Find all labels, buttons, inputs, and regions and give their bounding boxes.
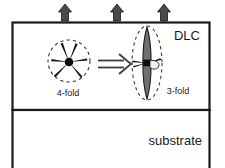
stress-arrows-group [59,4,171,21]
stress-arrow-up-icon [158,4,171,21]
substrate-layer-label: substrate [149,133,202,148]
stress-arrow-up-icon [59,4,72,21]
three-fold-lobe [149,60,159,69]
three-fold-label: 3-fold [167,86,190,96]
dlc-layer-label: DLC [174,28,200,43]
diagram-canvas: 4-fold 3-fold DLC [0,0,225,168]
stress-arrow-up-icon [111,4,124,21]
four-fold-label: 4-fold [57,88,80,98]
four-fold-center-atom [65,58,74,67]
three-fold-center-atom [143,60,150,67]
